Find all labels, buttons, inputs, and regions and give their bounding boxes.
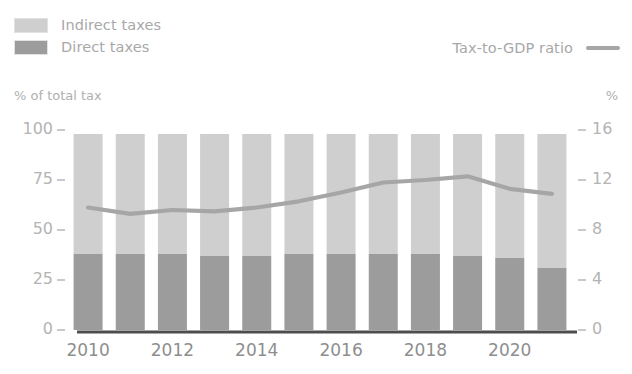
y2-axis-tick-label: 0 xyxy=(592,319,628,338)
bar-segment-direct-taxes[interactable] xyxy=(411,254,440,330)
x-axis-tick-label: 2018 xyxy=(380,340,470,360)
y-axis-tick-label: 25 xyxy=(0,269,53,288)
bar-segment-indirect-taxes[interactable] xyxy=(200,134,229,256)
y2-axis-tick-label: 12 xyxy=(592,169,628,188)
y-axis-tick-label: 0 xyxy=(0,319,53,338)
bar-segment-direct-taxes[interactable] xyxy=(200,256,229,330)
bar-segment-direct-taxes[interactable] xyxy=(284,254,313,330)
bars-group xyxy=(74,134,567,330)
x-axis-tick-label: 2016 xyxy=(296,340,386,360)
bar-segment-direct-taxes[interactable] xyxy=(453,256,482,330)
bar-segment-indirect-taxes[interactable] xyxy=(116,134,145,254)
x-axis-tick-label: 2012 xyxy=(127,340,217,360)
bar-segment-indirect-taxes[interactable] xyxy=(242,134,271,256)
x-axis-tick-label: 2020 xyxy=(465,340,555,360)
x-axis-tick-label: 2010 xyxy=(43,340,133,360)
bar-segment-indirect-taxes[interactable] xyxy=(369,134,398,254)
bar-segment-indirect-taxes[interactable] xyxy=(284,134,313,254)
bar-segment-indirect-taxes[interactable] xyxy=(537,134,566,268)
bar-segment-direct-taxes[interactable] xyxy=(74,254,103,330)
bar-segment-indirect-taxes[interactable] xyxy=(158,134,187,254)
y-axis-tick-label: 75 xyxy=(0,169,53,188)
y2-axis-tick-label: 16 xyxy=(592,119,628,138)
bar-segment-direct-taxes[interactable] xyxy=(495,258,524,330)
x-axis-tick-label: 2014 xyxy=(212,340,302,360)
tax-to-gdp-ratio-line[interactable] xyxy=(88,176,552,214)
y2-axis-tick-label: 8 xyxy=(592,219,628,238)
y2-axis-tick-label: 4 xyxy=(592,269,628,288)
plot-svg xyxy=(0,0,632,374)
y-axis-tick-label: 50 xyxy=(0,219,53,238)
bar-segment-direct-taxes[interactable] xyxy=(537,268,566,330)
bar-segment-indirect-taxes[interactable] xyxy=(495,134,524,258)
bar-segment-direct-taxes[interactable] xyxy=(116,254,145,330)
bar-segment-direct-taxes[interactable] xyxy=(158,254,187,330)
y-axis-tick-label: 100 xyxy=(0,119,53,138)
plot-area: 1007550250161284020102012201420162018202… xyxy=(0,0,632,374)
tax-composition-chart: Indirect taxes Direct taxes Tax-to-GDP r… xyxy=(0,0,632,374)
bar-segment-indirect-taxes[interactable] xyxy=(411,134,440,254)
bar-segment-indirect-taxes[interactable] xyxy=(74,134,103,254)
bar-segment-indirect-taxes[interactable] xyxy=(453,134,482,256)
bar-segment-direct-taxes[interactable] xyxy=(242,256,271,330)
bar-segment-direct-taxes[interactable] xyxy=(327,254,356,330)
bar-segment-direct-taxes[interactable] xyxy=(369,254,398,330)
